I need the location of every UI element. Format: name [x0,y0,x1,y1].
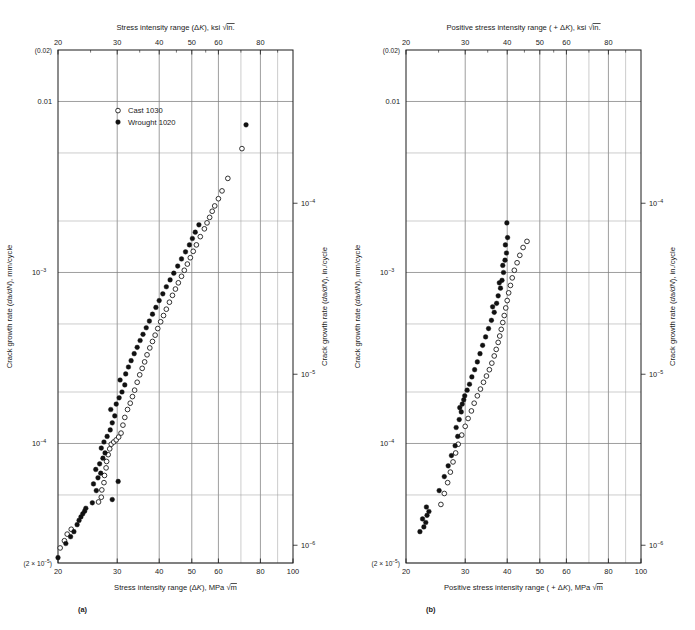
ytick-label-right: 10−4 [649,198,663,208]
data-point-filled [75,522,80,527]
data-point-open [496,340,501,345]
data-point-open [130,394,135,399]
data-point-open [517,253,522,258]
ytick-label-left: 10−4 [32,438,46,448]
xtick-top-label: 80 [604,38,612,47]
data-point-filled [168,278,173,283]
series-cast-1030 [439,239,530,507]
data-point-filled [190,236,195,241]
xtick-top-label: 30 [461,38,469,47]
data-point-open [137,372,142,377]
data-point-filled [424,505,429,510]
data-point-open [240,146,245,151]
data-point-filled [101,456,106,461]
data-point-filled [116,479,121,484]
xtick-top-label: 40 [503,38,511,47]
data-point-open [155,326,160,331]
data-point-filled [147,319,152,324]
data-point-filled [110,421,115,426]
data-point-filled [420,517,425,522]
ytick-label-left: (2 × 10−5) [372,559,400,568]
data-point-open [506,291,511,296]
data-point-filled [480,343,485,348]
data-point-open [164,307,169,312]
data-point-filled [470,375,475,380]
xtick-top-label: 60 [214,38,222,47]
data-point-filled [120,390,125,395]
data-point-open [176,280,181,285]
data-point-filled [93,467,98,472]
data-point-open [505,298,510,303]
xtick-top-label: 50 [188,38,196,47]
data-point-open [225,176,230,181]
data-layer [418,221,530,534]
data-point-filled [457,417,462,422]
data-point-filled [187,243,192,248]
data-point-filled [478,351,483,356]
data-point-filled [108,428,113,433]
data-point-filled [453,443,458,448]
data-point-filled [83,506,88,511]
xtick-bottom-label: 60 [562,567,570,576]
data-point-open [497,334,502,339]
chart-panel-b: 203040506080203040506080100(0.02)0.0110−… [348,0,695,630]
data-point-filled [496,293,501,298]
ytick-label-left: (2 × 10−5) [24,559,52,568]
data-point-filled [483,335,488,340]
label-layer: 203040506080203040506080100(0.02)0.0110−… [353,23,677,614]
data-point-open [125,407,130,412]
data-point-open [484,374,489,379]
chart-panel-a: 203040506080203040506080100(0.02)0.0110−… [0,0,347,630]
data-point-open [451,460,456,465]
data-point-filled [504,221,509,226]
x-axis-title-top: Stress intensity range (ΔK), ksi √in. [116,23,234,32]
y-axis-title-left: Crack growth rate (da/dN), mm/cycle [5,245,14,369]
data-point-open [487,367,492,372]
xtick-top-label: 80 [256,38,264,47]
data-point-open [210,209,215,214]
ytick-label-left: 10−3 [32,267,46,277]
data-point-filled [486,326,491,331]
data-point-open [469,409,474,414]
data-point-filled [442,474,447,479]
xtick-bottom-label: 60 [214,567,222,576]
data-point-filled [94,488,99,493]
data-point-filled [421,525,426,530]
data-point-filled [138,338,143,343]
xtick-bottom-label: 100 [287,567,299,576]
xtick-bottom-label: 80 [604,567,612,576]
data-point-filled [123,372,128,377]
data-point-filled [164,284,169,289]
data-point-open [500,320,505,325]
ytick-label-left: 0.01 [38,97,52,106]
data-point-open [445,480,450,485]
xtick-top-label: 50 [536,38,544,47]
data-point-filled [244,122,249,127]
figure-container: 203040506080203040506080100(0.02)0.0110−… [0,0,695,630]
data-point-open [119,431,124,436]
data-point-open [472,401,477,406]
data-point-filled [90,500,95,505]
y-axis-title-right: Crack growth rate (da/dN), in./cycle [320,247,329,366]
data-point-filled [472,367,477,372]
ytick-label-left: 10−3 [380,267,394,277]
data-point-open [194,243,199,248]
data-point-open [161,313,166,318]
ytick-label-right: 10−5 [649,369,663,379]
data-point-filled [467,382,472,387]
data-point-filled [460,402,465,407]
data-point-filled [427,509,432,514]
data-point-filled [498,286,503,291]
data-point-open [140,366,145,371]
data-point-filled [492,310,497,315]
data-point-filled [56,555,61,560]
xtick-bottom-label: 50 [536,567,544,576]
data-point-filled [112,414,117,419]
data-point-filled [183,250,188,255]
legend-label: Wrought 1020 [128,118,176,127]
data-point-filled [99,446,104,451]
data-point-open [216,196,221,201]
xtick-top-label: 30 [113,38,121,47]
data-point-open [58,546,63,551]
data-point-open [99,495,104,500]
